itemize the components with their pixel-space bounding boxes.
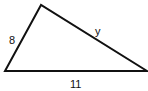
side-label-base: 11 (70, 78, 81, 90)
side-label-left: 8 (9, 34, 15, 46)
triangle-diagram: 8 y 11 (0, 0, 148, 91)
triangle (5, 5, 147, 71)
side-label-hypotenuse: y (95, 25, 101, 37)
